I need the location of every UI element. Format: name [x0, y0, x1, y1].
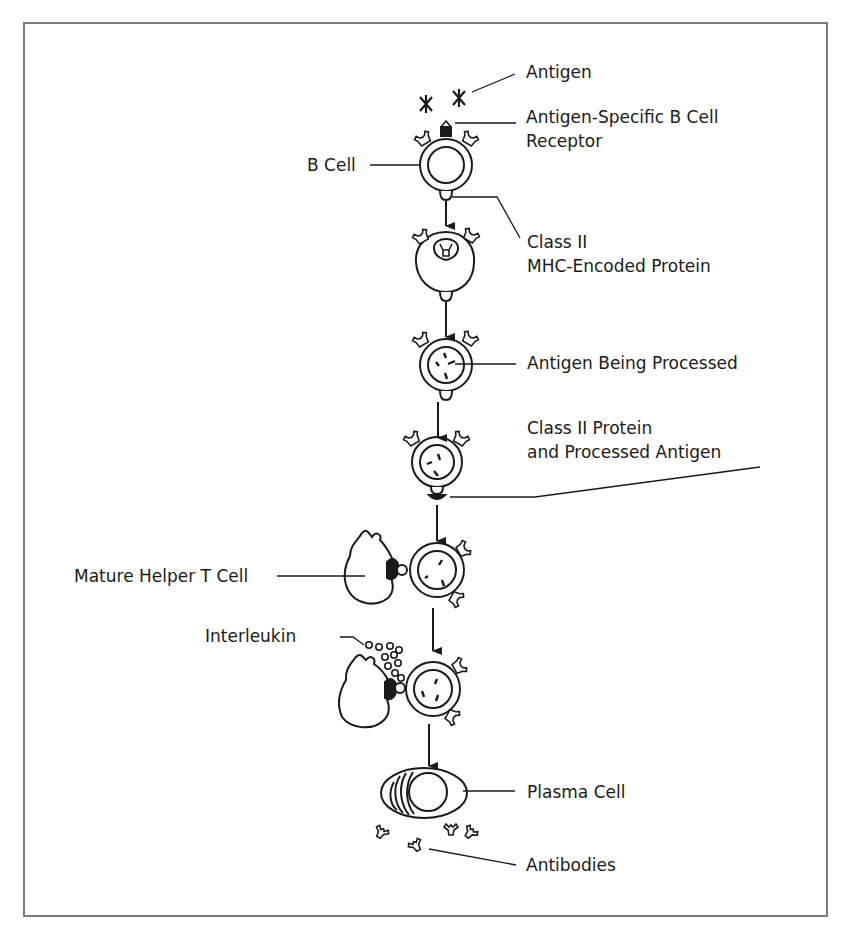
helper-t-cell-icon — [345, 531, 407, 604]
antibodies-icon — [372, 824, 479, 854]
label-receptor: Antigen-Specific B Cell Receptor — [526, 105, 718, 153]
label-antibodies: Antibodies — [526, 853, 616, 877]
plasma-cell-icon — [381, 768, 467, 818]
label-interleukin: Interleukin — [205, 624, 296, 648]
antigen-icon — [420, 89, 465, 113]
label-antigen-processing-text: Antigen Being Processed — [527, 351, 738, 375]
b-cell-bound-icon — [410, 540, 472, 609]
b-cell-activation-diagram — [0, 0, 847, 930]
b-cell-processing-icon — [412, 330, 480, 400]
label-presenting-line1: Class II Protein — [527, 416, 721, 440]
b-cell-activated-icon — [406, 657, 468, 727]
b-cell-presenting-icon — [403, 430, 471, 499]
label-class-ii-presenting: Class II Protein and Processed Antigen — [527, 416, 721, 464]
b-cell-engulfing-icon — [412, 227, 481, 301]
label-interleukin-text: Interleukin — [205, 624, 296, 648]
label-antigen-text: Antigen — [526, 60, 592, 84]
label-plasma-cell: Plasma Cell — [527, 780, 625, 804]
b-cell-icon — [414, 121, 480, 200]
label-presenting-line2: and Processed Antigen — [527, 440, 721, 464]
label-helper-t-cell: Mature Helper T Cell — [74, 564, 248, 588]
label-antigen-processing: Antigen Being Processed — [527, 351, 738, 375]
label-class-ii-line1: Class II — [527, 230, 711, 254]
label-antibodies-text: Antibodies — [526, 853, 616, 877]
label-plasma-cell-text: Plasma Cell — [527, 780, 625, 804]
label-helper-t-cell-text: Mature Helper T Cell — [74, 564, 248, 588]
label-b-cell: B Cell — [307, 153, 356, 177]
label-class-ii-line2: MHC-Encoded Protein — [527, 254, 711, 278]
helper-t-cell-secreting-icon — [339, 655, 405, 727]
label-b-cell-text: B Cell — [307, 153, 356, 177]
label-class-ii-mhc: Class II MHC-Encoded Protein — [527, 230, 711, 278]
label-receptor-line2: Receptor — [526, 129, 718, 153]
label-antigen: Antigen — [526, 60, 592, 84]
label-receptor-line1: Antigen-Specific B Cell — [526, 105, 718, 129]
